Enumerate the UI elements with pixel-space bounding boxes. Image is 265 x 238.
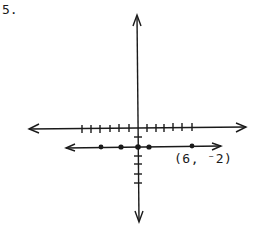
point-label: (6, ⁻2)	[174, 151, 232, 166]
coordinate-plane	[0, 0, 265, 238]
graphed-line	[66, 143, 221, 151]
y-axis	[133, 15, 143, 222]
